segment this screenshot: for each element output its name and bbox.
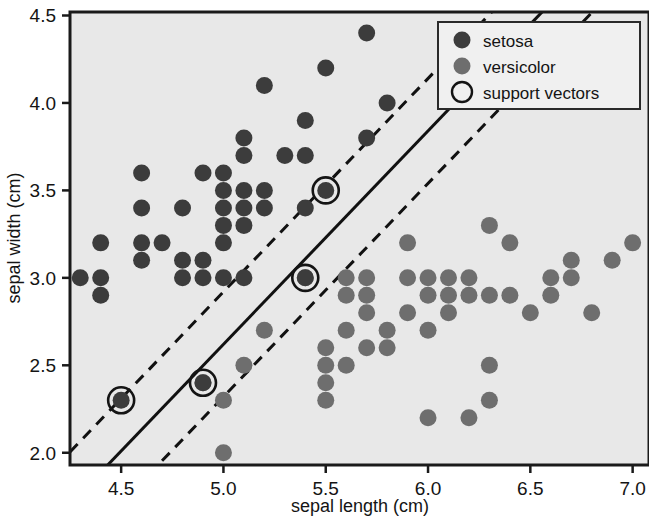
data-point-setosa (358, 129, 375, 146)
data-point-setosa (358, 24, 375, 41)
data-point-versicolor (501, 287, 518, 304)
x-tick-label: 4.5 (108, 478, 134, 499)
data-point-setosa (276, 147, 293, 164)
x-tick-label: 7.0 (619, 478, 645, 499)
data-point-versicolor (501, 234, 518, 251)
x-axis-title: sepal length (cm) (291, 496, 429, 516)
data-point-versicolor (358, 269, 375, 286)
data-point-versicolor (358, 287, 375, 304)
data-point-setosa (297, 112, 314, 129)
data-point-setosa (297, 199, 314, 216)
data-point-setosa (194, 269, 211, 286)
data-point-versicolor (481, 217, 498, 234)
data-point-versicolor (358, 339, 375, 356)
legend-label-support-vectors: support vectors (483, 84, 599, 103)
x-tick-label: 5.0 (210, 478, 236, 499)
data-point-versicolor (440, 287, 457, 304)
data-point-versicolor (317, 374, 334, 391)
y-axis-title: sepal width (cm) (4, 172, 24, 303)
data-point-setosa (174, 269, 191, 286)
data-point-versicolor (338, 269, 355, 286)
data-point-setosa (379, 94, 396, 111)
y-tick-label: 4.0 (30, 93, 56, 114)
data-point-versicolor (317, 357, 334, 374)
data-point-setosa (133, 199, 150, 216)
data-point-versicolor (358, 304, 375, 321)
legend-marker-versicolor-icon (454, 58, 471, 75)
data-point-setosa (215, 217, 232, 234)
data-point-setosa (235, 269, 252, 286)
data-point-versicolor (256, 322, 273, 339)
data-point-setosa (256, 77, 273, 94)
data-point-versicolor (542, 287, 559, 304)
legend-marker-setosa-icon (454, 32, 471, 49)
data-point-versicolor (215, 444, 232, 461)
data-point-setosa (92, 287, 109, 304)
data-point-versicolor (215, 392, 232, 409)
chart-figure: 4.55.05.56.06.57.0 2.02.53.03.54.04.5 se… (0, 0, 649, 523)
data-point-setosa (235, 217, 252, 234)
data-point-versicolor (399, 269, 416, 286)
data-point-setosa (235, 129, 252, 146)
data-point-versicolor (563, 252, 580, 269)
data-point-setosa (235, 199, 252, 216)
data-point-setosa (154, 234, 171, 251)
data-point-versicolor (542, 269, 559, 286)
data-point-versicolor (481, 392, 498, 409)
data-point-setosa (133, 234, 150, 251)
data-point-versicolor (440, 304, 457, 321)
y-tick-label: 2.5 (30, 355, 56, 376)
data-point-setosa (215, 199, 232, 216)
data-point-setosa (235, 182, 252, 199)
data-point-setosa (133, 164, 150, 181)
data-point-versicolor (440, 269, 457, 286)
data-point-versicolor (624, 234, 641, 251)
data-point-versicolor (338, 357, 355, 374)
data-point-setosa (194, 374, 211, 391)
data-point-versicolor (460, 409, 477, 426)
data-point-versicolor (460, 269, 477, 286)
scatter-plot-svg: 4.55.05.56.06.57.0 2.02.53.03.54.04.5 se… (0, 0, 649, 523)
data-point-versicolor (522, 304, 539, 321)
data-point-versicolor (235, 357, 252, 374)
data-point-setosa (215, 269, 232, 286)
data-point-setosa (174, 252, 191, 269)
data-point-versicolor (317, 392, 334, 409)
data-point-versicolor (317, 339, 334, 356)
data-point-versicolor (420, 409, 437, 426)
y-tick-label: 3.5 (30, 180, 56, 201)
data-point-setosa (215, 234, 232, 251)
data-point-versicolor (420, 287, 437, 304)
legend-label-versicolor: versicolor (483, 58, 556, 77)
data-point-versicolor (399, 304, 416, 321)
data-point-versicolor (460, 287, 477, 304)
data-point-versicolor (481, 357, 498, 374)
data-point-versicolor (563, 269, 580, 286)
data-point-versicolor (379, 322, 396, 339)
data-point-setosa (215, 182, 232, 199)
x-tick-label: 6.5 (517, 478, 543, 499)
data-point-setosa (297, 147, 314, 164)
data-point-setosa (72, 269, 89, 286)
data-point-setosa (194, 252, 211, 269)
data-point-setosa (174, 199, 191, 216)
legend: setosa versicolor support vectors (438, 22, 640, 109)
data-point-setosa (256, 199, 273, 216)
data-point-setosa (92, 234, 109, 251)
data-point-setosa (113, 392, 130, 409)
data-point-versicolor (338, 322, 355, 339)
data-point-versicolor (399, 234, 416, 251)
legend-label-setosa: setosa (483, 32, 534, 51)
data-point-setosa (317, 182, 334, 199)
data-point-versicolor (420, 269, 437, 286)
data-point-versicolor (481, 287, 498, 304)
data-point-setosa (215, 164, 232, 181)
data-point-versicolor (379, 339, 396, 356)
data-point-setosa (133, 252, 150, 269)
data-point-setosa (194, 164, 211, 181)
data-point-versicolor (420, 322, 437, 339)
data-point-setosa (256, 182, 273, 199)
y-tick-label: 4.5 (30, 5, 56, 26)
y-tick-label: 2.0 (30, 443, 56, 464)
data-point-versicolor (583, 304, 600, 321)
